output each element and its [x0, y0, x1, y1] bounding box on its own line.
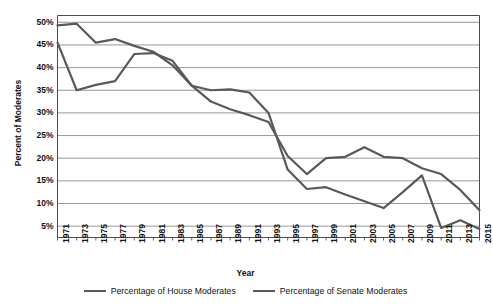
- chart-legend: Percentage of House ModeratesPercentage …: [0, 286, 491, 296]
- x-tick-label: 1997: [311, 224, 320, 243]
- x-tick-label: 1995: [292, 224, 301, 243]
- y-tick-label: 10%: [20, 199, 54, 208]
- y-tick-label: 25%: [20, 131, 54, 140]
- x-tick-label: 1989: [234, 224, 243, 243]
- y-tick-label: 45%: [20, 40, 54, 49]
- data-series-layer: [58, 24, 480, 229]
- x-tick-label: 1985: [196, 224, 205, 243]
- x-tick-label: 1971: [62, 224, 71, 243]
- x-tick-label: 1973: [81, 224, 90, 243]
- y-axis-title: Percent of Moderates: [13, 53, 23, 193]
- legend-line-swatch: [84, 290, 106, 293]
- legend-item-senate[interactable]: Percentage of Senate Moderates: [253, 286, 408, 296]
- x-tick-label: 2015: [484, 224, 493, 243]
- x-tick-label: 1979: [138, 224, 147, 243]
- legend-label: Percentage of House Moderates: [111, 286, 236, 296]
- x-tick-label: 1991: [254, 224, 263, 243]
- x-tick-label: 2009: [426, 224, 435, 243]
- x-tick-label: 1981: [158, 224, 167, 243]
- y-tick-label: 30%: [20, 108, 54, 117]
- y-tick-label: 35%: [20, 86, 54, 95]
- x-tick-label: 2011: [445, 224, 454, 242]
- y-tick-label: 40%: [20, 63, 54, 72]
- y-tick-label: 5%: [20, 222, 54, 231]
- x-tick-label: 2001: [349, 224, 358, 243]
- y-tick-label: 15%: [20, 176, 54, 185]
- x-tick-label: 2005: [388, 224, 397, 243]
- series-line-senate: [58, 24, 480, 211]
- x-axis-title: Year: [0, 268, 491, 278]
- x-tick-label: 1993: [273, 224, 282, 243]
- y-tick-label: 50%: [20, 18, 54, 27]
- legend-item-house[interactable]: Percentage of House Moderates: [84, 286, 236, 296]
- x-tick-label: 1977: [119, 224, 128, 243]
- x-tick-label: 1983: [177, 224, 186, 243]
- x-tick-label: 2003: [369, 224, 378, 243]
- x-tick-label: 2013: [465, 224, 474, 243]
- gridlines: [58, 22, 480, 226]
- legend-line-swatch: [253, 290, 275, 293]
- x-tick-label: 1987: [215, 224, 224, 243]
- x-tick-label: 1999: [330, 224, 339, 243]
- legend-label: Percentage of Senate Moderates: [280, 286, 408, 296]
- y-tick-label: 20%: [20, 154, 54, 163]
- x-tick-label: 2007: [407, 224, 416, 243]
- x-tick-label: 1975: [100, 224, 109, 243]
- plot-frame: [58, 16, 480, 241]
